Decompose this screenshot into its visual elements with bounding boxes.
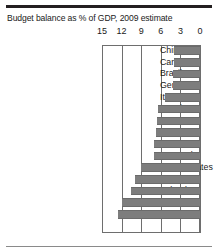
bar-spain bbox=[135, 175, 200, 184]
x-tick-label-9: 9 bbox=[131, 26, 151, 37]
bar-japan bbox=[157, 117, 200, 126]
bar-italy bbox=[165, 93, 200, 102]
bottom-divider-rule bbox=[6, 246, 212, 247]
x-tick-label-6: 6 bbox=[151, 26, 171, 37]
chart-row: Brazil bbox=[0, 68, 218, 80]
category-label-canada: Canada bbox=[122, 57, 218, 68]
bar-russia bbox=[158, 105, 200, 114]
bar-india bbox=[154, 140, 200, 149]
category-label-china: China bbox=[122, 45, 218, 56]
bar-ireland bbox=[131, 187, 200, 196]
bar-greece bbox=[122, 198, 200, 207]
chart-row: China bbox=[0, 45, 218, 57]
category-label-germany: Germany bbox=[122, 80, 218, 91]
bar-france bbox=[156, 128, 200, 137]
chart-row: France bbox=[0, 127, 218, 139]
chart-row: Italy bbox=[0, 92, 218, 104]
category-label-brazil: Brazil bbox=[122, 68, 218, 79]
chart-row: India bbox=[0, 139, 218, 151]
chart-row: United States bbox=[0, 162, 218, 174]
chart-title: Budget balance as % of GDP, 2009 estimat… bbox=[7, 13, 172, 24]
chart-row: Japan bbox=[0, 115, 218, 127]
bar-germany bbox=[173, 81, 200, 90]
top-divider-rule bbox=[6, 5, 212, 8]
x-tick-label-0: 0 bbox=[190, 26, 210, 37]
bar-canada bbox=[174, 58, 200, 67]
chart-row: Canada bbox=[0, 57, 218, 69]
x-tick-label-12: 12 bbox=[112, 26, 132, 37]
x-tick-label-3: 3 bbox=[170, 26, 190, 37]
bar-brazil bbox=[173, 70, 200, 79]
chart-rows: ChinaCanadaBrazilGermanyItalyRussiaJapan… bbox=[0, 45, 218, 220]
bar-united-states bbox=[141, 163, 200, 172]
chart-row: Ireland bbox=[0, 185, 218, 197]
chart-row: Britain bbox=[0, 209, 218, 221]
chart-row: Greece bbox=[0, 197, 218, 209]
bar-britain bbox=[118, 210, 200, 219]
chart-row: Germany bbox=[0, 80, 218, 92]
bar-china bbox=[174, 46, 200, 55]
chart-row: Russia bbox=[0, 103, 218, 115]
chart-figure: Budget balance as % of GDP, 2009 estimat… bbox=[0, 0, 218, 251]
bar-portugal bbox=[154, 152, 200, 161]
chart-row: Portugal bbox=[0, 150, 218, 162]
x-tick-label-15: 15 bbox=[92, 26, 112, 37]
chart-row: Spain bbox=[0, 174, 218, 186]
x-axis-tick-labels: 15129630 bbox=[0, 26, 218, 40]
